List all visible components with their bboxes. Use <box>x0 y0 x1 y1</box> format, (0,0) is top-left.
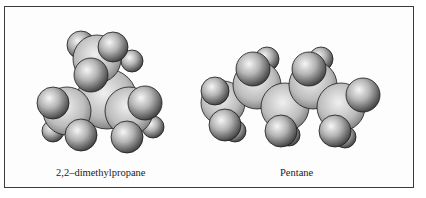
panel-dimethylpropane: 2,2–dimethylpropane <box>5 7 210 187</box>
caption-dimethylpropane: 2,2–dimethylpropane <box>56 167 146 178</box>
figure-frame: 2,2–dimethylpropane <box>4 6 414 188</box>
dimethylpropane-model <box>5 7 210 157</box>
pentane-model <box>195 7 415 157</box>
caption-pentane: Pentane <box>280 167 313 178</box>
panel-pentane: Pentane <box>195 7 415 187</box>
